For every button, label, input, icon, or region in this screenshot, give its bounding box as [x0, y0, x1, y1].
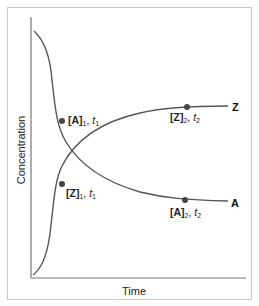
label-z1: [Z]1, t1 [66, 188, 96, 200]
marker-z2 [184, 104, 190, 110]
x-axis-label: Time [122, 285, 146, 297]
curve-label-a: A [231, 197, 239, 209]
y-axis-label: Concentration [15, 116, 27, 185]
marker-z1 [59, 181, 65, 187]
marker-a1 [59, 118, 65, 124]
curve-z [33, 106, 228, 275]
label-z2: [Z]2, t2 [170, 112, 200, 124]
label-a1: [A]1, t1 [68, 115, 99, 127]
marker-a2 [182, 197, 188, 203]
label-a2: [A]2, t2 [170, 207, 201, 219]
chart-plot [0, 0, 259, 306]
curve-label-z: Z [232, 101, 239, 113]
